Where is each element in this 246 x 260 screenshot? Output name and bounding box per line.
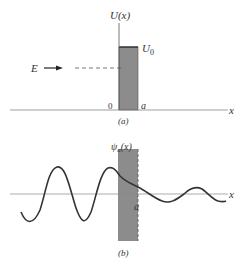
caption-a: (a) [118, 116, 129, 126]
panel-a: U(x) U0 E 0 a x (a) [10, 9, 234, 126]
caption-b: (b) [118, 248, 129, 258]
energy-label: E [30, 62, 38, 74]
x-axis-label-b: x [228, 188, 234, 200]
origin-label: 0 [108, 101, 113, 111]
u-of-x-label: U(x) [110, 9, 130, 22]
potential-barrier [119, 47, 138, 110]
barrier-region [118, 149, 138, 241]
barrier-width-label: a [141, 100, 146, 111]
diagram-canvas: U(x) U0 E 0 a x (a) ψa(x) a x (b) [0, 0, 246, 260]
arrow-right-icon [56, 66, 63, 71]
u0-label: U0 [142, 42, 154, 57]
x-axis-label-a: x [228, 104, 234, 116]
barrier-width-label-b: a [134, 201, 139, 212]
panel-b: ψa(x) a x (b) [10, 141, 234, 258]
